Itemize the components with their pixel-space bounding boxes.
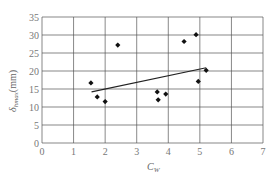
y-axis-label: δhmax(mm) <box>7 70 20 112</box>
x-tick-label: 1 <box>71 146 76 157</box>
y-tick-label: 25 <box>29 48 39 59</box>
y-tick-label: 0 <box>34 138 39 149</box>
data-point-diamond <box>95 94 100 99</box>
y-tick-label: 5 <box>34 120 39 131</box>
x-tick-label: 0 <box>40 146 45 157</box>
data-point-diamond <box>115 42 120 47</box>
x-axis-label: CW <box>147 161 161 174</box>
y-tick-label: 30 <box>29 30 39 41</box>
scatter-chart: 05101520253035 01234567 CW δhmax(mm) <box>0 0 279 176</box>
data-point-diamond <box>181 39 186 44</box>
x-tick-label: 7 <box>261 146 266 157</box>
x-tick-label: 4 <box>166 146 171 157</box>
x-tick-label: 2 <box>103 146 108 157</box>
y-tick-label: 15 <box>29 84 39 95</box>
data-points <box>88 32 208 104</box>
x-tick-label: 3 <box>134 146 139 157</box>
x-axis-ticks: 01234567 <box>40 146 266 157</box>
trend-line <box>92 68 207 92</box>
data-point-diamond <box>155 89 160 94</box>
x-tick-label: 5 <box>197 146 202 157</box>
data-point-diamond <box>193 32 198 37</box>
grid <box>42 17 263 143</box>
y-tick-label: 20 <box>29 66 39 77</box>
data-point-diamond <box>163 91 168 96</box>
data-point-diamond <box>88 80 93 85</box>
data-point-diamond <box>156 97 161 102</box>
x-tick-label: 6 <box>229 146 234 157</box>
y-tick-label: 10 <box>29 102 39 113</box>
data-point-diamond <box>103 99 108 104</box>
y-tick-label: 35 <box>29 12 39 23</box>
y-axis-ticks: 05101520253035 <box>29 12 39 149</box>
